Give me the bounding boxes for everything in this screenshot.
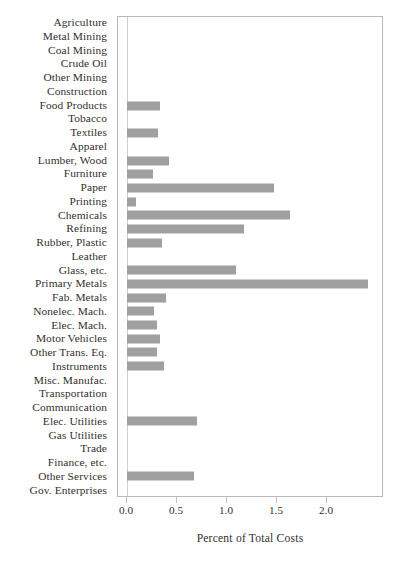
y-axis-label: Gov. Enterprises xyxy=(0,484,112,498)
bar-row xyxy=(118,154,382,168)
bar xyxy=(127,416,197,425)
bar xyxy=(127,320,157,329)
y-axis-label: Trade xyxy=(0,442,112,456)
bar xyxy=(127,238,162,247)
x-axis: 0.00.51.01.52.0 xyxy=(117,497,383,527)
y-axis-label: Elec. Utilities xyxy=(0,415,112,429)
x-axis-tick xyxy=(326,497,327,503)
y-axis-label: Transportation xyxy=(0,387,112,401)
y-axis-label: Communication xyxy=(0,401,112,415)
y-axis-label: Printing xyxy=(0,195,112,209)
y-axis-label: Textiles xyxy=(0,126,112,140)
y-axis-label: Finance, etc. xyxy=(0,456,112,470)
y-axis-label: Paper xyxy=(0,181,112,195)
bar-row xyxy=(118,181,382,195)
bar-row xyxy=(118,140,382,154)
bar-row xyxy=(118,428,382,442)
bar-row xyxy=(118,291,382,305)
bar-row xyxy=(118,85,382,99)
bar-row xyxy=(118,236,382,250)
bar xyxy=(127,334,160,343)
y-axis-label: Primary Metals xyxy=(0,277,112,291)
bar xyxy=(127,348,157,357)
bar xyxy=(127,197,136,206)
bar xyxy=(127,129,158,138)
y-axis-label: Other Services xyxy=(0,470,112,484)
x-axis-tick-label: 0.0 xyxy=(119,504,133,516)
bar-row xyxy=(118,113,382,127)
bar xyxy=(127,362,164,371)
y-axis-label: Agriculture xyxy=(0,16,112,30)
bar-row xyxy=(118,127,382,141)
bar-row xyxy=(118,414,382,428)
y-axis-label: Tobacco xyxy=(0,112,112,126)
bar xyxy=(127,211,290,220)
y-axis-category-labels: AgricultureMetal MiningCoal MiningCrude … xyxy=(0,16,112,497)
y-axis-label: Other Trans. Eq. xyxy=(0,346,112,360)
bar xyxy=(127,184,274,193)
y-axis-label: Rubber, Plastic xyxy=(0,236,112,250)
bar-row xyxy=(118,373,382,387)
bar-row xyxy=(118,17,382,31)
bar-row xyxy=(118,168,382,182)
bar xyxy=(127,307,154,316)
y-axis-label: Motor Vehicles xyxy=(0,332,112,346)
bar-row xyxy=(118,209,382,223)
bar xyxy=(127,170,153,179)
y-axis-label: Elec. Mach. xyxy=(0,319,112,333)
bar-row xyxy=(118,263,382,277)
y-axis-label: Coal Mining xyxy=(0,44,112,58)
y-axis-label: Glass, etc. xyxy=(0,264,112,278)
y-axis-label: Lumber, Wood xyxy=(0,154,112,168)
x-axis-tick xyxy=(276,497,277,503)
x-axis-tick xyxy=(226,497,227,503)
y-axis-label: Misc. Manufac. xyxy=(0,374,112,388)
bar xyxy=(127,156,169,165)
bar xyxy=(127,471,194,480)
y-axis-label: Fab. Metals xyxy=(0,291,112,305)
x-axis-tick-label: 1.5 xyxy=(269,504,283,516)
bar-row xyxy=(118,482,382,496)
y-axis-label: Crude Oil xyxy=(0,57,112,71)
bar-row xyxy=(118,250,382,264)
y-axis-label: Apparel xyxy=(0,140,112,154)
x-axis-tick-label: 2.0 xyxy=(319,504,333,516)
bar-row xyxy=(118,346,382,360)
bar xyxy=(127,279,368,288)
bar-row xyxy=(118,387,382,401)
bar xyxy=(127,293,166,302)
bar-row xyxy=(118,469,382,483)
bar xyxy=(127,101,160,110)
x-axis-tick xyxy=(176,497,177,503)
y-axis-label: Food Products xyxy=(0,99,112,113)
bar-row xyxy=(118,72,382,86)
bar-row xyxy=(118,222,382,236)
y-axis-label: Gas Utilities xyxy=(0,429,112,443)
y-axis-label: Nonelec. Mach. xyxy=(0,305,112,319)
bar-row xyxy=(118,99,382,113)
y-axis-label: Metal Mining xyxy=(0,30,112,44)
bar-row xyxy=(118,332,382,346)
x-axis-title: Percent of Total Costs xyxy=(117,532,383,545)
bar-chart-figure: AgricultureMetal MiningCoal MiningCrude … xyxy=(0,0,402,561)
y-axis-label: Chemicals xyxy=(0,209,112,223)
x-axis-tick-label: 0.5 xyxy=(169,504,183,516)
bar-row xyxy=(118,195,382,209)
y-axis-label: Leather xyxy=(0,250,112,264)
y-axis-label: Refining xyxy=(0,222,112,236)
bars-container xyxy=(118,17,382,496)
bar-row xyxy=(118,44,382,58)
bar-row xyxy=(118,455,382,469)
bar-row xyxy=(118,304,382,318)
bar xyxy=(127,266,236,275)
bar-row xyxy=(118,359,382,373)
bar-row xyxy=(118,318,382,332)
bar-row xyxy=(118,277,382,291)
bar-row xyxy=(118,400,382,414)
plot-area xyxy=(117,16,383,497)
bar-row xyxy=(118,58,382,72)
y-axis-label: Furniture xyxy=(0,167,112,181)
y-axis-label: Instruments xyxy=(0,360,112,374)
bar-row xyxy=(118,31,382,45)
y-axis-label: Other Mining xyxy=(0,71,112,85)
